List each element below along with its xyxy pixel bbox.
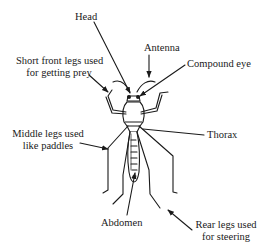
label-abdomen: Abdomen <box>101 217 142 229</box>
middle-leg-left <box>103 126 128 193</box>
pointer-compound-eye <box>140 65 185 96</box>
label-rear-legs: Rear legs used for steering <box>190 219 262 243</box>
antenna-right <box>137 81 155 92</box>
rear-leg-left <box>113 132 130 204</box>
label-thorax: Thorax <box>207 129 237 141</box>
rear-leg-right <box>137 132 160 208</box>
pointer-rear-legs <box>168 210 192 230</box>
insect-diagram: Head Antenna Compound eye Short front le… <box>0 0 266 249</box>
label-front-legs-line1: Short front legs used <box>16 55 102 67</box>
label-compound-eye: Compound eye <box>187 58 251 70</box>
eye-left <box>127 95 131 99</box>
eye-right <box>136 95 140 99</box>
label-rear-legs-line2: for steering <box>190 231 262 243</box>
label-middle-legs-line1: Middle legs used <box>12 128 84 140</box>
pointer-thorax <box>143 129 204 135</box>
pointer-middle-legs <box>80 143 108 149</box>
label-head: Head <box>75 11 97 23</box>
label-antenna: Antenna <box>144 42 180 54</box>
label-rear-legs-line1: Rear legs used <box>190 219 262 231</box>
label-middle-legs-line2: like paddles <box>12 140 84 152</box>
antenna-left <box>113 81 130 92</box>
label-front-legs: Short front legs used for getting prey <box>16 55 102 79</box>
insect-drawing <box>0 0 266 249</box>
label-middle-legs: Middle legs used like paddles <box>12 128 84 152</box>
front-leg-right <box>141 92 168 112</box>
middle-leg-right <box>139 126 177 193</box>
label-front-legs-line2: for getting prey <box>16 67 102 79</box>
